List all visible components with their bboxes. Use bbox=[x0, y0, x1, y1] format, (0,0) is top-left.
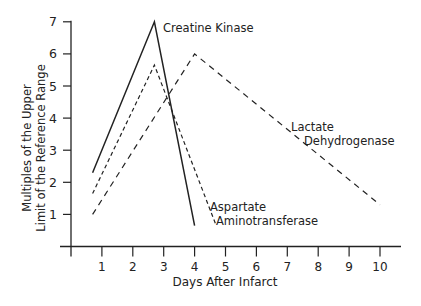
x-tick-label: 6 bbox=[253, 260, 261, 274]
x-tick-label: 7 bbox=[283, 260, 291, 274]
x-tick-label: 5 bbox=[222, 260, 230, 274]
x-tick-label: 1 bbox=[98, 260, 106, 274]
x-tick-label: 9 bbox=[345, 260, 353, 274]
x-tick-label: 4 bbox=[191, 260, 199, 274]
series-lines bbox=[93, 22, 380, 226]
y-tick-label: 4 bbox=[49, 111, 57, 126]
series-line-1 bbox=[93, 65, 217, 226]
y-tick-label: 7 bbox=[49, 14, 57, 29]
y-tick-label: 6 bbox=[49, 46, 57, 61]
series-label: Aspartate bbox=[210, 200, 266, 214]
x-axis-label: Days After Infarct bbox=[172, 275, 277, 289]
y-tick-label: 2 bbox=[49, 175, 57, 190]
enzyme-chart: 123456712345678910 Creatine KinaseAspart… bbox=[0, 0, 421, 306]
series-line-0 bbox=[93, 22, 195, 226]
y-axis-label-line1: Multiples of the Upper bbox=[20, 84, 34, 212]
series-label: Dehydrogenase bbox=[304, 134, 395, 148]
y-tick-label: 3 bbox=[49, 143, 57, 158]
x-tick-label: 8 bbox=[314, 260, 322, 274]
series-label: Creatine Kinase bbox=[163, 21, 254, 35]
x-tick-label: 2 bbox=[129, 260, 137, 274]
x-tick-label: 3 bbox=[160, 260, 168, 274]
x-tick-label: 10 bbox=[372, 260, 387, 274]
series-label: Aminotransferase bbox=[216, 214, 318, 228]
y-tick-label: 5 bbox=[49, 79, 57, 94]
series-labels: Creatine KinaseAspartateAminotransferase… bbox=[163, 21, 395, 228]
y-axis-label-line2: Limit of the Reference Range bbox=[34, 64, 48, 231]
series-label: Lactate bbox=[291, 120, 334, 134]
y-tick-label: 1 bbox=[49, 207, 57, 222]
